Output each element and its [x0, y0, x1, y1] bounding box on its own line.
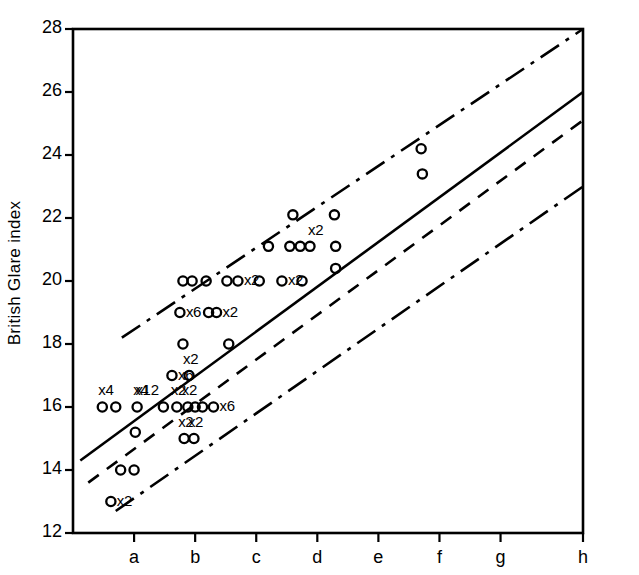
x-tick-label: f: [414, 547, 464, 568]
data-point: [175, 308, 184, 317]
data-point: [106, 497, 115, 506]
data-point: [129, 465, 138, 474]
x-tick-marks: [134, 533, 583, 542]
x-tick-label: e: [353, 547, 403, 568]
x-tick-label: c: [231, 547, 281, 568]
data-point: [178, 339, 187, 348]
data-point: [131, 428, 140, 437]
data-point: [331, 242, 340, 251]
axis-frame: [73, 29, 583, 533]
y-tick-label: 24: [14, 143, 62, 164]
multiplicity-label: x2: [183, 350, 198, 367]
axis-box: [73, 29, 583, 533]
x-tick-label: d: [292, 547, 342, 568]
multiplicity-label: x2: [308, 221, 323, 238]
data-point: [418, 169, 427, 178]
data-point: [159, 402, 168, 411]
x-tick-label: b: [170, 547, 220, 568]
data-point: [178, 276, 187, 285]
multiplicity-label: x4: [98, 381, 113, 398]
data-point: [209, 402, 218, 411]
y-tick-label: 26: [14, 80, 62, 101]
multiplicity-label: x2: [244, 271, 259, 288]
data-point: [330, 210, 339, 219]
y-tick-label: 14: [14, 458, 62, 479]
x-tick-label: h: [558, 547, 608, 568]
multiplicity-label: x2: [182, 381, 197, 398]
multiplicity-label: x6: [219, 397, 234, 414]
data-point: [264, 242, 273, 251]
data-point: [116, 465, 125, 474]
y-tick-label: 20: [14, 269, 62, 290]
data-point: [277, 276, 286, 285]
data-point: [188, 276, 197, 285]
data-point: [305, 242, 314, 251]
data-point: [285, 242, 294, 251]
data-point: [180, 434, 189, 443]
data-point: [189, 434, 198, 443]
data-point: [172, 402, 181, 411]
data-point: [288, 210, 297, 219]
y-tick-label: 22: [14, 206, 62, 227]
data-point: [331, 264, 340, 273]
multiplicity-label: x2: [117, 492, 132, 509]
chart-figure: British Glare index 121416182022242628 a…: [0, 0, 639, 575]
y-tick-label: 28: [14, 17, 62, 38]
trend-line-upper-limit: [122, 29, 583, 338]
multiplicity-label: x2: [288, 271, 303, 288]
data-points: [98, 144, 427, 506]
data-point: [296, 242, 305, 251]
multiplicity-label: x2: [188, 413, 203, 430]
multiplicity-label: x12: [135, 381, 158, 398]
y-tick-label: 12: [14, 521, 62, 542]
data-point: [417, 144, 426, 153]
x-tick-label: g: [476, 547, 526, 568]
multiplicity-label: x6: [178, 366, 193, 383]
data-point: [111, 402, 120, 411]
y-tick-label: 18: [14, 332, 62, 353]
x-tick-label: a: [109, 547, 159, 568]
y-tick-label: 16: [14, 395, 62, 416]
trend-line-best-fit: [80, 92, 583, 461]
data-point: [222, 276, 231, 285]
multiplicity-label: x2: [223, 303, 238, 320]
data-point: [224, 339, 233, 348]
plot-area: [0, 0, 639, 575]
trend-line-secondary-fit: [88, 120, 583, 482]
data-point: [167, 371, 176, 380]
data-point: [98, 402, 107, 411]
multiplicity-label: x6: [186, 303, 201, 320]
data-point: [233, 276, 242, 285]
data-point: [133, 402, 142, 411]
